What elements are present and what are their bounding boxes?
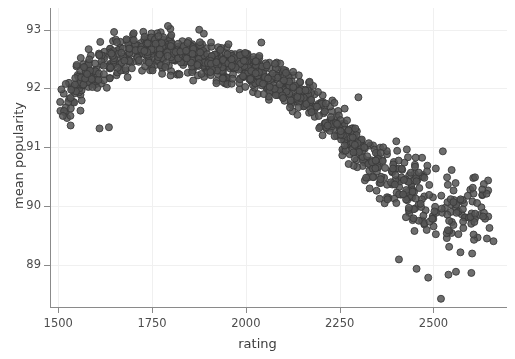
- y-tick-mark: [44, 88, 50, 89]
- x-tick-mark: [246, 308, 247, 313]
- y-tick-label: 93: [11, 24, 41, 35]
- y-tick-mark: [44, 147, 50, 148]
- x-tick-label: 2500: [403, 316, 463, 330]
- x-tick-label: 2000: [216, 316, 276, 330]
- plot-area: [50, 8, 507, 307]
- x-tick-label: 2250: [310, 316, 370, 330]
- x-tick-label: 1500: [28, 316, 88, 330]
- y-axis-title: mean popularity: [11, 46, 26, 266]
- x-axis-title: rating: [0, 336, 515, 351]
- y-axis-spine: [50, 8, 51, 308]
- x-tick-mark: [58, 308, 59, 313]
- scatter-chart-figure: 8990919293 15001750200022502500 rating m…: [0, 0, 515, 359]
- y-tick-mark: [44, 265, 50, 266]
- x-tick-mark: [152, 308, 153, 313]
- scatter-points-canvas: [50, 8, 507, 307]
- x-axis-spine: [50, 307, 507, 308]
- x-tick-mark: [433, 308, 434, 313]
- y-tick-mark: [44, 30, 50, 31]
- y-tick-mark: [44, 206, 50, 207]
- x-tick-label: 1750: [122, 316, 182, 330]
- x-tick-mark: [340, 308, 341, 313]
